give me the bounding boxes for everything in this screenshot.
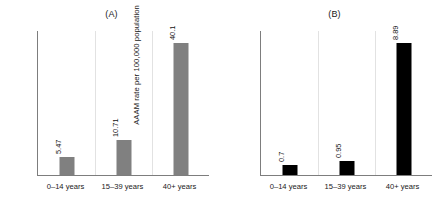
panel-b-bar-slot: 0.95 [318, 31, 375, 175]
bar-value-label: 8.89 [391, 26, 400, 40]
bar-value-label: 0.95 [334, 144, 343, 158]
bar[interactable] [396, 43, 411, 175]
panel-b-bar-slot: 0.7 [261, 31, 318, 175]
bar[interactable] [339, 161, 354, 175]
panel-a-x-tick-label: 40+ years [151, 182, 208, 191]
figure-canvas: (A) AAAI rate per 100,000 population 5.4… [0, 0, 446, 207]
panel-b-x-tick-label: 40+ years [374, 182, 431, 191]
bar-value-label: 40.1 [168, 26, 177, 40]
bar[interactable] [282, 165, 297, 175]
bar[interactable] [173, 43, 188, 175]
chart-panel-a: (A) AAAI rate per 100,000 population 5.4… [0, 0, 223, 207]
panel-a-bar-slot: 5.47 [38, 31, 95, 175]
bar[interactable] [59, 157, 74, 175]
bar[interactable] [116, 140, 131, 175]
panel-b-title: (B) [223, 9, 446, 19]
panel-b-bar-slot: 8.89 [375, 31, 432, 175]
panel-b-plot-area: 0.7 0.95 8.89 [260, 31, 432, 176]
panel-b-x-tick-label: 0–14 years [260, 182, 317, 191]
bar-value-label: 5.47 [54, 140, 63, 154]
panel-a-bar-slot: 40.1 [152, 31, 209, 175]
panel-b-y-axis-label: AAAM rate per 100,000 population [132, 0, 144, 140]
panel-b-x-tick-label: 15–39 years [317, 182, 374, 191]
panel-a-x-tick-label: 15–39 years [94, 182, 151, 191]
panel-a-title: (A) [0, 9, 223, 19]
panel-a-plot-area: 5.47 10.71 40.1 [37, 31, 209, 176]
panel-a-x-tick-label: 0–14 years [37, 182, 94, 191]
bar-value-label: 0.7 [277, 152, 286, 162]
bar-value-label: 10.71 [111, 119, 120, 138]
chart-panel-b: (B) AAAM rate per 100,000 population 0.7… [223, 0, 446, 207]
